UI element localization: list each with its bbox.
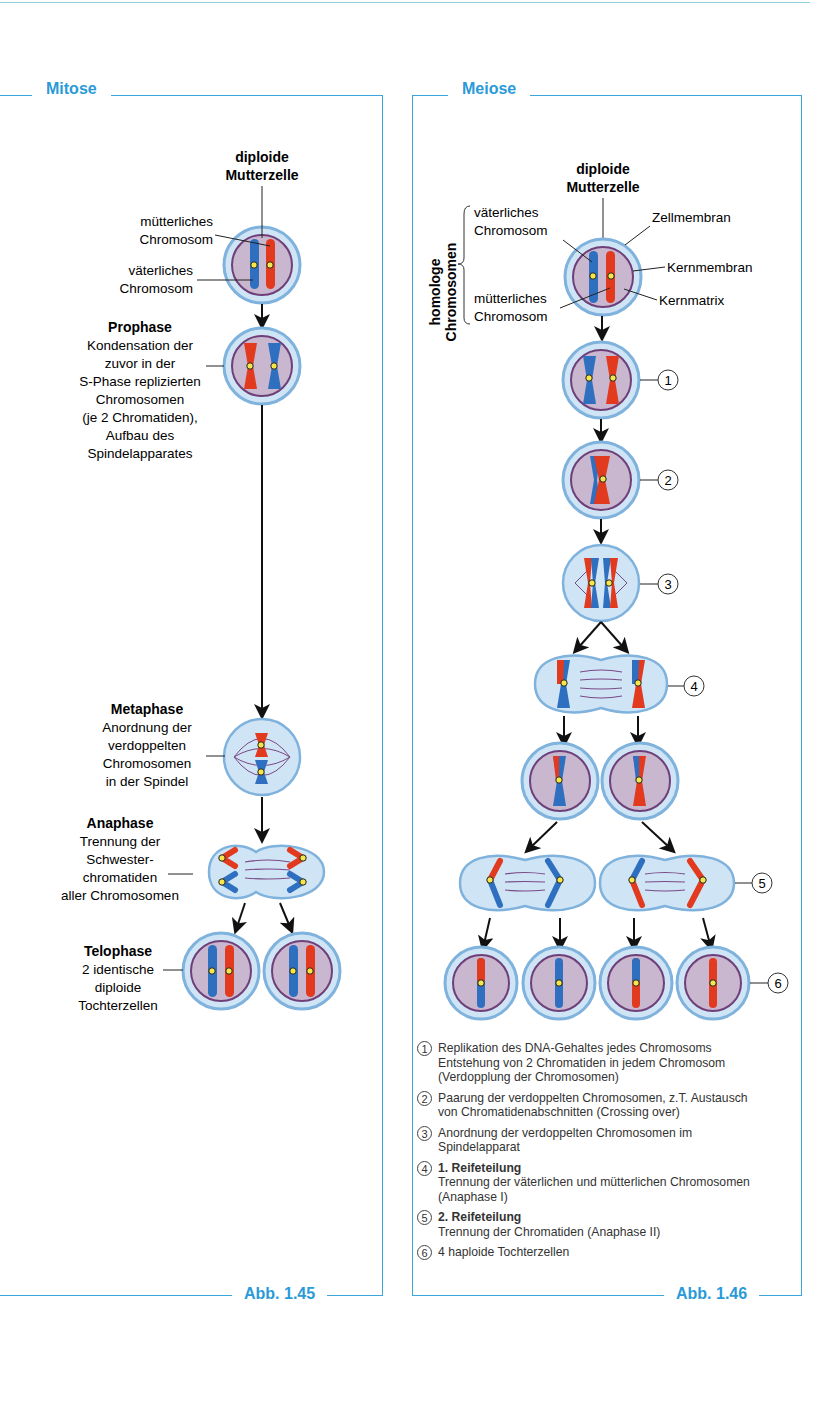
mitose-figure-label: Abb. 1.45 <box>232 1285 327 1303</box>
label-zellmembran: Zellmembran <box>652 210 731 225</box>
meiose-step-5-cells <box>460 856 734 910</box>
svg-text:diploide: diploide <box>95 980 142 995</box>
svg-text:S-Phase replizierten: S-Phase replizierten <box>79 374 201 389</box>
svg-text:Chromosom: Chromosom <box>474 223 548 238</box>
label-maternal: mütterliches <box>140 214 213 229</box>
diagram-canvas: diploide Mutterzelle mütterliches Chromo… <box>0 0 825 1040</box>
label-paternal: väterliches <box>128 263 193 278</box>
label-kernmatrix: Kernmatrix <box>659 293 725 308</box>
svg-text:Chromosom: Chromosom <box>119 281 193 296</box>
legend-item-1: 1 Replikation des DNA-Gehaltes jedes Chr… <box>417 1041 812 1085</box>
svg-text:Aufbau des: Aufbau des <box>106 428 175 443</box>
meiose-mother-title: diploide <box>576 161 630 177</box>
svg-text:6: 6 <box>774 976 781 991</box>
svg-text:3: 3 <box>664 577 671 592</box>
svg-text:Chromosomen: Chromosomen <box>96 392 185 407</box>
meiose-step-6-cells <box>445 947 749 1019</box>
svg-text:väterliches: väterliches <box>474 205 539 220</box>
svg-text:(je 2 Chromatiden),: (je 2 Chromatiden), <box>82 410 198 425</box>
svg-text:mütterliches: mütterliches <box>474 291 547 306</box>
svg-text:aller Chromosomen: aller Chromosomen <box>61 888 179 903</box>
legend-item-6: 6 4 haploide Tochterzellen <box>417 1245 812 1260</box>
mitose-telophase-cells <box>183 933 340 1009</box>
meiose-legend: 1 Replikation des DNA-Gehaltes jedes Chr… <box>417 1041 812 1266</box>
metaphase-title: Metaphase <box>111 701 184 717</box>
mitose-anaphase-cell <box>209 846 324 898</box>
legend-item-3: 3 Anordnung der verdoppelten Chromosomen… <box>417 1126 812 1155</box>
svg-text:2 identische: 2 identische <box>82 962 154 977</box>
svg-text:5: 5 <box>758 876 765 891</box>
meiose-step-2-cell <box>563 442 639 518</box>
legend-item-4: 4 1. ReifeteilungTrennung der väterliche… <box>417 1161 812 1205</box>
legend-item-2: 2 Paarung der verdoppelten Chromosomen, … <box>417 1091 812 1120</box>
meiose-step-3-cell <box>563 545 639 621</box>
mitose-prophase-cell <box>224 328 300 404</box>
svg-text:Chromosomen: Chromosomen <box>103 756 192 771</box>
svg-text:Trennung der: Trennung der <box>80 834 161 849</box>
svg-text:homologe: homologe <box>427 258 443 325</box>
telophase-title: Telophase <box>84 943 152 959</box>
svg-text:Anordnung der: Anordnung der <box>102 720 192 735</box>
svg-text:Schwester-: Schwester- <box>86 852 154 867</box>
anaphase-title: Anaphase <box>87 815 154 831</box>
svg-text:verdoppelten: verdoppelten <box>108 738 186 753</box>
meiose-step-4-cell <box>535 656 667 713</box>
meiose-step-1-cell <box>563 342 639 418</box>
svg-text:Chromosom: Chromosom <box>139 232 213 247</box>
metaphase-description: Anordnung der verdoppelten Chromosomen i… <box>102 720 192 789</box>
label-kernmembran: Kernmembran <box>667 260 753 275</box>
svg-text:Kondensation der: Kondensation der <box>87 338 193 353</box>
homologe-label: homologe Chromosomen <box>427 243 459 342</box>
prophase-title: Prophase <box>108 319 172 335</box>
mitose-metaphase-cell <box>224 719 300 795</box>
svg-text:in der Spindel: in der Spindel <box>106 774 189 789</box>
svg-text:2: 2 <box>664 473 671 488</box>
svg-text:Mutterzelle: Mutterzelle <box>225 167 298 183</box>
svg-text:chromatiden: chromatiden <box>83 870 157 885</box>
prophase-description: Kondensation der zuvor in der S-Phase re… <box>79 338 201 461</box>
meiose-figure-label: Abb. 1.46 <box>664 1285 759 1303</box>
anaphase-description: Trennung der Schwester- chromatiden alle… <box>61 834 179 903</box>
telophase-description: 2 identische diploide Tochterzellen <box>78 962 158 1013</box>
mitose-mother-title: diploide <box>235 149 289 165</box>
svg-text:Chromosom: Chromosom <box>474 309 548 324</box>
mitose-mother-cell <box>224 227 300 303</box>
svg-text:Spindelapparates: Spindelapparates <box>87 446 192 461</box>
svg-text:Chromosomen: Chromosomen <box>443 243 459 342</box>
svg-text:Tochterzellen: Tochterzellen <box>78 998 158 1013</box>
svg-text:Mutterzelle: Mutterzelle <box>566 179 639 195</box>
svg-text:4: 4 <box>690 679 697 694</box>
meiose-interphase-cells <box>522 743 678 819</box>
svg-text:zuvor in der: zuvor in der <box>105 356 176 371</box>
svg-text:1: 1 <box>664 373 671 388</box>
legend-item-5: 5 2. ReifeteilungTrennung der Chromatide… <box>417 1210 812 1239</box>
